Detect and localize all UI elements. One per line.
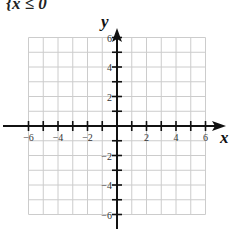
y-tick-label: −4 xyxy=(101,180,112,191)
y-tick-label: 4 xyxy=(107,62,112,73)
y-tick-label: 6 xyxy=(107,33,112,44)
x-tick-label: −2 xyxy=(82,132,93,143)
axes xyxy=(3,28,226,229)
x-tick-label: 4 xyxy=(174,132,179,143)
coordinate-plane: −6−4−2246642−2−4−6xy xyxy=(0,0,230,229)
x-tick-label: −4 xyxy=(53,132,64,143)
y-axis-label: y xyxy=(99,12,109,31)
tick-labels: −6−4−2246642−2−4−6xy xyxy=(23,12,229,221)
x-tick-label: −6 xyxy=(23,132,34,143)
y-tick-label: 2 xyxy=(107,92,112,103)
y-tick-label: −2 xyxy=(101,151,112,162)
x-tick-label: 2 xyxy=(144,132,149,143)
x-tick-label: 6 xyxy=(203,132,208,143)
y-tick-label: −6 xyxy=(101,210,112,221)
x-axis-label: x xyxy=(219,128,229,147)
